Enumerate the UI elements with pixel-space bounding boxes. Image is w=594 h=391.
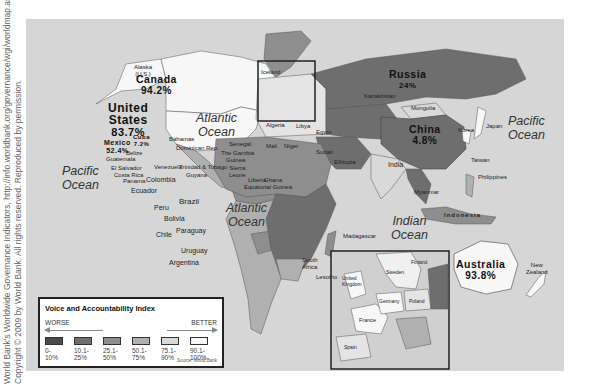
label-mali: Mali: [266, 143, 277, 150]
legend: Voice and Accountability Index WORSE BET…: [38, 297, 224, 368]
label-guinea: Guinea: [226, 157, 245, 164]
label-mongolia: Mongolia: [411, 105, 435, 112]
arrow-right-icon: [167, 330, 217, 331]
label-panama: Panama: [123, 178, 145, 185]
label-ghana: Ghana: [264, 177, 282, 184]
label-belize: Belize: [126, 150, 142, 157]
label-poland: Poland: [409, 298, 425, 305]
label-south-africa: South Africa: [302, 257, 318, 271]
label-guyana: Guyana: [186, 172, 207, 179]
label-australia: Australia93.8%: [456, 259, 505, 281]
label-bolivia: Bolivia: [164, 215, 185, 222]
label-gambia: The Gambia: [221, 150, 254, 157]
credit-line-2: Copyright © 2009 by World Bank. All righ…: [13, 4, 24, 384]
label-bahamas: Bahamas: [169, 136, 194, 143]
label-brazil: Brazil: [179, 198, 199, 205]
label-france: France: [359, 317, 376, 324]
swatch: [161, 337, 179, 345]
legend-source: Source: World Bank: [177, 358, 217, 363]
legend-worse-label: WORSE: [45, 319, 70, 326]
label-dominican-rep: Dominican Rep.: [176, 145, 219, 152]
label-libya: Libya: [296, 123, 310, 130]
label-finland: Finland: [411, 259, 427, 266]
label-trinidad-tobago: Trinidad & Tobago: [179, 164, 227, 171]
copyright-credit: World Bank's Worldwide Governance Indica…: [2, 4, 24, 384]
label-alaska: Alaska (U.S.): [134, 64, 152, 78]
label-taiwan: Taiwan: [471, 157, 490, 164]
label-indonesia: Indonesia: [444, 212, 481, 219]
ocean-pacific-east: Pacific Ocean: [62, 164, 99, 192]
label-ethiopia: Ethiopia: [334, 159, 356, 166]
label-united-kingdom: United Kingdom: [342, 275, 362, 287]
label-madagascar: Madagascar: [343, 233, 376, 240]
legend-title: Voice and Accountability Index: [45, 304, 155, 313]
label-lesotho: Lesotho: [316, 274, 337, 281]
ocean-atlantic-south: Atlantic Ocean: [226, 201, 267, 229]
label-uruguay: Uruguay: [181, 247, 207, 254]
label-new-zealand: New Zealand: [526, 262, 548, 276]
label-el-salvador: El Salvador: [111, 165, 142, 172]
swatch: [45, 337, 63, 345]
label-colombia: Colombia: [146, 176, 176, 183]
label-iceland: Iceland: [261, 69, 280, 76]
label-venezuela: Venezuela: [154, 164, 182, 171]
label-korea: Korea: [458, 127, 474, 134]
legend-better-label: BETTER: [191, 319, 217, 326]
label-peru: Peru: [154, 204, 169, 211]
label-china: China4.8%: [409, 124, 441, 146]
legend-band-0-10: 0- 10%: [45, 337, 75, 361]
legend-band-50-75: 50.1- 75%: [132, 337, 162, 361]
swatch: [103, 337, 121, 345]
label-equatorial-guinea: Equatorial Guinea: [244, 184, 292, 191]
label-senegal: Senegal: [229, 141, 251, 148]
label-sierra-leone: Sierra Leone: [229, 165, 246, 179]
label-myanmar: Myanmar: [414, 189, 439, 196]
label-russia: Russia24%: [389, 69, 426, 91]
label-argentina: Argentina: [169, 259, 199, 266]
swatch: [74, 337, 92, 345]
label-germany: Germany: [379, 298, 400, 305]
ocean-indian: Indian Ocean: [391, 214, 428, 242]
label-united-states: United States83.7%: [108, 102, 148, 138]
arrow-left-icon: [45, 330, 103, 331]
ocean-pacific-west: Pacific Ocean: [508, 114, 545, 142]
label-ecuador: Ecuador: [131, 187, 157, 194]
ocean-atlantic-north: Atlantic Ocean: [196, 111, 237, 139]
label-spain: Spain: [344, 344, 357, 351]
label-algeria: Algeria: [266, 122, 285, 129]
label-philippines: Philippines: [478, 174, 507, 181]
label-chile: Chile: [156, 231, 172, 238]
label-cuba: Cuba7.2%: [133, 134, 150, 148]
label-india: India: [388, 161, 403, 168]
label-egypt: Egypt: [316, 129, 331, 136]
label-guatemala: Guatemala: [106, 156, 135, 163]
label-japan: Japan: [486, 123, 502, 130]
label-niger: Niger: [284, 143, 298, 150]
legend-band-10-25: 10.1- 25%: [74, 337, 104, 361]
label-sudan: Sudan: [316, 149, 333, 156]
label-kazakhstan: Kazakhstan: [364, 93, 395, 100]
label-sweden: Sweden: [386, 269, 404, 276]
swatch: [132, 337, 150, 345]
swatch: [190, 337, 208, 345]
legend-band-25-50: 25.1- 50%: [103, 337, 133, 361]
credit-line-1: World Bank's Worldwide Governance Indica…: [2, 4, 13, 384]
label-paraguay: Paraguay: [176, 227, 206, 234]
